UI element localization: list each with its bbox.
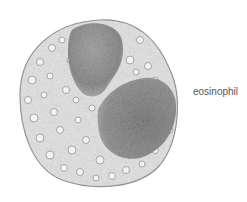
- cell-label: eosinophil: [193, 86, 238, 97]
- eosinophil-illustration: [0, 0, 247, 202]
